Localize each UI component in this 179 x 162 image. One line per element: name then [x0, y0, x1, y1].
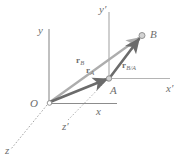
point-marker-A: [106, 76, 111, 81]
axis-label-y: y: [38, 25, 43, 36]
axis-z-line: [11, 105, 47, 149]
point-label-A: A: [110, 85, 117, 96]
point-marker-B: [139, 33, 145, 39]
axis-label-z: z: [5, 145, 9, 156]
figure-container: y′ x′ z′ y x z O A B rB rA rB/A: [0, 0, 179, 162]
axis-label-x: x: [96, 106, 101, 117]
vector-label-r-A-sub: A: [90, 69, 94, 76]
axis-label-y-prime: y′: [99, 4, 106, 15]
point-label-O: O: [30, 98, 38, 109]
axis-label-x-prime: x′: [166, 83, 173, 94]
vector-label-r-B-A-sub: B/A: [126, 64, 136, 71]
vector-label-r-B-A: rB/A: [122, 61, 136, 70]
vector-label-r-B-sub: B: [80, 59, 84, 66]
figure-canvas: [0, 0, 179, 162]
point-marker-O: [47, 101, 52, 106]
point-label-B: B: [150, 29, 157, 40]
vector-label-r-A: rA: [86, 66, 94, 75]
vector-label-r-B: rB: [76, 56, 84, 65]
axis-label-z-prime: z′: [62, 121, 69, 132]
